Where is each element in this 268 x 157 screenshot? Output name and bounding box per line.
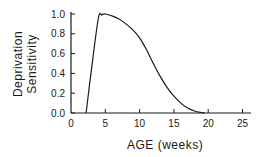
y-tick-label: 0.8 — [51, 28, 65, 39]
x-ticks: 0510152025 — [68, 109, 248, 129]
x-tick-label: 10 — [134, 118, 146, 129]
y-tick-label: 0.4 — [51, 68, 65, 79]
y-tick-label: 0.6 — [51, 48, 65, 59]
y-axis-title-line2: Sensitivity — [25, 34, 39, 94]
chart: 0510152025 0.00.20.40.60.81.0 AGE (weeks… — [0, 0, 268, 157]
y-tick-label: 0.0 — [51, 108, 65, 119]
x-tick-label: 15 — [168, 118, 180, 129]
x-axis-title: AGE (weeks) — [127, 138, 203, 152]
x-tick-label: 0 — [68, 118, 74, 129]
x-tick-label: 5 — [103, 118, 109, 129]
sensitivity-curve — [86, 13, 205, 113]
y-axis-title-line1: Deprivation — [11, 31, 25, 97]
y-tick-label: 0.2 — [51, 88, 65, 99]
x-tick-label: 25 — [237, 118, 249, 129]
y-tick-label: 1.0 — [51, 9, 65, 20]
x-tick-label: 20 — [203, 118, 215, 129]
